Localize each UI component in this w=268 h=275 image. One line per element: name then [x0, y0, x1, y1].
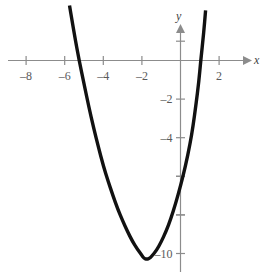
- y-tick-label: –4: [158, 132, 173, 144]
- y-axis-arrow-icon: [176, 24, 185, 33]
- x-tick-label: –4: [97, 70, 109, 82]
- coordinate-plane: [0, 0, 268, 275]
- parabola-curve: [70, 5, 206, 259]
- y-tick-label: –2: [158, 93, 173, 105]
- x-axis-label: x: [254, 54, 259, 66]
- x-tick-label: –2: [136, 70, 148, 82]
- y-tick-label: –10: [151, 248, 173, 260]
- y-axis-label: y: [176, 10, 181, 22]
- graph-figure: x y –8–6–4–22 –2–4–10: [0, 0, 268, 275]
- x-tick-label: –6: [59, 70, 71, 82]
- x-axis-arrow-icon: [243, 56, 252, 65]
- x-tick-label: 2: [216, 70, 222, 82]
- x-tick-label: –8: [20, 70, 32, 82]
